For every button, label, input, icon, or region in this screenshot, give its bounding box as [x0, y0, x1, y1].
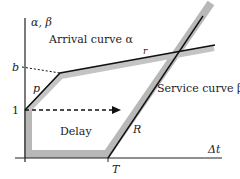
y-axis-label: α, β	[31, 16, 52, 29]
arrival-curve-label: Arrival curve α	[48, 33, 133, 46]
slope-R-label: R	[132, 123, 141, 136]
slope-p-label: p	[33, 82, 40, 95]
service-curve-band	[28, 3, 214, 154]
y-tick-b-label: b	[12, 61, 19, 74]
x-tick-T-label: T	[112, 163, 121, 176]
burst-b-dotted-line	[22, 67, 60, 73]
y-tick-1-label: 1	[12, 104, 19, 117]
x-axis-label: Δt	[207, 143, 221, 156]
delay-label: Delay	[60, 125, 92, 138]
slope-r-label: r	[143, 46, 148, 56]
arrow-head-icon	[112, 106, 121, 114]
service-curve-label: Service curve β	[157, 82, 240, 95]
network-calculus-diagram: α, β Arrival curve α r b p 1 Service cur…	[0, 0, 240, 179]
delay-arrow	[25, 106, 121, 114]
